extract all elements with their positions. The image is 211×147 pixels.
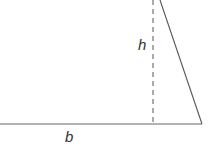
trapezoid-diagram: h b [0, 0, 211, 147]
slanted-side-line [160, 0, 202, 124]
base-label: b [65, 128, 73, 145]
height-label: h [138, 36, 146, 53]
